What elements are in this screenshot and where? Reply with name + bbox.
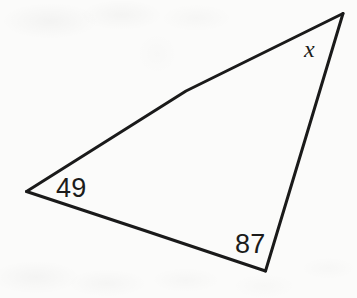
angle-label-left: 49 xyxy=(56,175,86,202)
triangle-edge-left-bottom xyxy=(27,192,266,272)
diagram-canvas: 49 87 x xyxy=(0,0,357,298)
triangle-edge-apex-left xyxy=(27,14,344,192)
angle-label-bottom: 87 xyxy=(235,231,265,258)
angle-label-apex-variable: x xyxy=(304,37,315,61)
